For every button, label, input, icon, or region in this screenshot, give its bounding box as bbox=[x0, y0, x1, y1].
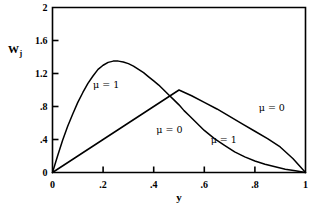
annotation-mu-0-right: μ = 0 bbox=[259, 103, 285, 113]
data-curves bbox=[53, 61, 306, 172]
y-tick-label: .4 bbox=[40, 135, 48, 145]
x-tick-label: .4 bbox=[139, 180, 169, 190]
y-tick-label: 1.6 bbox=[35, 36, 48, 46]
annotation-mu-1-left: μ = 1 bbox=[93, 80, 119, 90]
annotation-mu-0-middle: μ = 0 bbox=[156, 125, 182, 135]
y-tick-label: 2 bbox=[43, 3, 48, 13]
chart-figure: Wj 0.4.81.21.62 0.2.4.6.81 μ = 1μ = 0μ =… bbox=[0, 0, 320, 203]
x-tick-label: 0 bbox=[38, 180, 68, 190]
y-tick-label: 1.2 bbox=[35, 69, 48, 79]
curve-mu-1 bbox=[53, 61, 306, 172]
y-tick-label: .8 bbox=[40, 102, 48, 112]
x-tick-label: .8 bbox=[240, 180, 270, 190]
x-axis-title: y bbox=[164, 192, 194, 203]
x-tick-label: 1 bbox=[291, 180, 320, 190]
y-tick-label: 0 bbox=[43, 168, 48, 178]
x-tick-label: .2 bbox=[88, 180, 118, 190]
annotation-mu-1-right: μ = 1 bbox=[211, 135, 237, 145]
x-tick-label: .6 bbox=[189, 180, 219, 190]
